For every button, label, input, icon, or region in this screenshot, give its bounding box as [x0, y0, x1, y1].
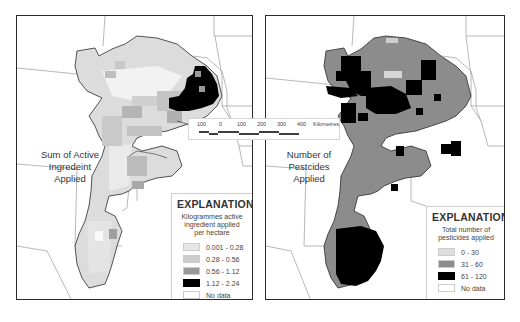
legend-swatch — [438, 272, 455, 280]
legend-swatch — [183, 243, 200, 251]
legend-swatch — [438, 260, 455, 268]
legend-subtitle-line: pesticides applied — [432, 234, 500, 242]
scale-bar-graphic — [189, 119, 341, 141]
legend-number-of-pesticides: EXPLANATION Total number of pesticides a… — [426, 206, 505, 300]
map-label-line: Applied — [274, 173, 344, 185]
legend-item-label: No data — [461, 285, 486, 292]
legend-subtitle: Total number of pesticides applied — [432, 226, 500, 242]
legend-item: No data — [432, 282, 500, 294]
legend-title: EXPLANATION — [432, 211, 500, 223]
map-panel-active-ingredient: Sum of Active Ingredeint Applied EXPLANA… — [16, 15, 253, 300]
legend-item-label: 61 - 120 — [461, 273, 487, 280]
map-panel-number-of-pesticides: Number of Pestcides Applied EXPLANATION … — [265, 15, 505, 300]
legend-item-label: 1.12 - 2.24 — [206, 280, 239, 287]
map-label-line: Applied — [35, 173, 105, 185]
legend-subtitle-line: per hectare — [177, 229, 247, 237]
legend-item-label: 0 - 30 — [461, 249, 479, 256]
legend-swatch — [183, 291, 200, 299]
legend-item: 0.001 - 0.28 — [177, 241, 247, 253]
legend-item: 0.56 - 1.12 — [177, 265, 247, 277]
legend-swatch — [183, 267, 200, 275]
map-label-number-of-pesticides: Number of Pestcides Applied — [274, 149, 344, 185]
legend-swatch — [438, 248, 455, 256]
legend-subtitle-line: Total number of — [432, 226, 500, 234]
legend-item: 1.12 - 2.24 — [177, 277, 247, 289]
map-label-active-ingredient: Sum of Active Ingredeint Applied — [35, 149, 105, 185]
legend-active-ingredient: EXPLANATION Kilogrammes active ingredien… — [171, 193, 253, 300]
legend-swatch — [183, 255, 200, 263]
legend-subtitle-line: Kilogrammes active — [177, 213, 247, 221]
map-label-line: Pestcides — [274, 161, 344, 173]
legend-item-label: No data — [206, 292, 231, 299]
legend-item-label: 0.28 - 0.56 — [206, 256, 239, 263]
map-label-line: Sum of Active — [35, 149, 105, 161]
legend-item: No data — [177, 289, 247, 300]
legend-item: 0 - 30 — [432, 246, 500, 258]
legend-item-label: 0.001 - 0.28 — [206, 244, 243, 251]
legend-item: 61 - 120 — [432, 270, 500, 282]
legend-item-label: 0.56 - 1.12 — [206, 268, 239, 275]
legend-subtitle-line: ingredient applied — [177, 221, 247, 229]
legend-item: 31 - 60 — [432, 258, 500, 270]
legend-swatch — [183, 279, 200, 287]
legend-swatch — [438, 284, 455, 292]
scale-bar: 100 0 100 200 300 400 Kilometres — [188, 118, 340, 140]
legend-subtitle: Kilogrammes active ingredient applied pe… — [177, 213, 247, 237]
map-label-line: Number of — [274, 149, 344, 161]
map-label-line: Ingredeint — [35, 161, 105, 173]
legend-item: 0.28 - 0.56 — [177, 253, 247, 265]
legend-title: EXPLANATION — [177, 198, 247, 210]
legend-item-label: 31 - 60 — [461, 261, 483, 268]
